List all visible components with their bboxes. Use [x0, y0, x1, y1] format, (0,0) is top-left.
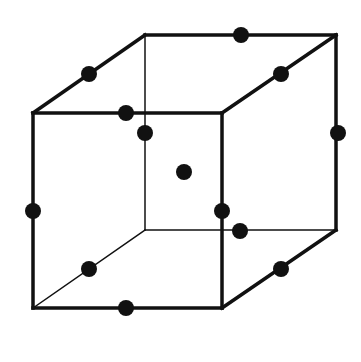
lattice-points	[25, 27, 346, 316]
dot-top-right-diag-mid	[273, 66, 289, 82]
dot-front-left-mid	[25, 203, 41, 219]
dot-front-bottom-mid	[118, 300, 134, 316]
dot-back-left-mid	[137, 125, 153, 141]
dot-front-top-mid	[118, 105, 134, 121]
cube-diagram	[0, 0, 361, 362]
dot-bottom-right-diag-mid	[273, 261, 289, 277]
dot-back-top-mid	[233, 27, 249, 43]
dot-back-bottom-mid	[232, 223, 248, 239]
dot-top-left-diag-mid	[81, 66, 97, 82]
dot-bottom-left-diag-mid	[81, 261, 97, 277]
dot-back-right-mid	[330, 125, 346, 141]
dot-body-center	[176, 164, 192, 180]
dot-front-right-mid	[214, 203, 230, 219]
